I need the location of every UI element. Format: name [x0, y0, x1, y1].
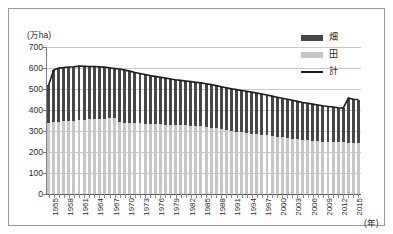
- x-axis-tick-label: 1967: [113, 198, 121, 216]
- x-axis-tick-label: 2009: [326, 198, 334, 216]
- x-axis-tick-label: 1964: [97, 198, 105, 216]
- chart-figure: (万ha) 7006005004003002001000 19551958196…: [0, 0, 393, 234]
- chart-legend: 畑田計: [301, 31, 371, 83]
- x-axis-tick-label: 1955: [52, 198, 60, 216]
- y-axis-tick-label: 400: [17, 106, 43, 115]
- y-axis-line: [46, 47, 47, 194]
- x-axis-tick-label: 1991: [234, 198, 242, 216]
- y-axis-tick-label: 0: [17, 190, 43, 199]
- x-axis-tick-label: 1979: [173, 198, 181, 216]
- x-axis-tick-label: 1973: [143, 198, 151, 216]
- x-axis-tick-label: 1961: [82, 198, 90, 216]
- legend-item[interactable]: 畑: [301, 31, 371, 44]
- legend-item-label: 畑: [329, 32, 338, 43]
- legend-item-label: 田: [329, 49, 338, 60]
- x-axis-tick-label: 1976: [158, 198, 166, 216]
- x-axis-tick-label: 1982: [189, 198, 197, 216]
- figure-frame: (万ha) 7006005004003002001000 19551958196…: [8, 8, 385, 226]
- legend-item[interactable]: 田: [301, 48, 371, 61]
- x-axis-tick-label: 2003: [295, 198, 303, 216]
- legend-line-swatch-icon: [301, 71, 323, 73]
- y-axis-tick-label: 500: [17, 85, 43, 94]
- x-axis-tick-label: 2000: [280, 198, 288, 216]
- y-axis-tick-label: 600: [17, 64, 43, 73]
- y-axis-tick-label: 700: [17, 43, 43, 52]
- legend-item-label: 計: [329, 66, 338, 77]
- x-axis-tick-label: 2012: [341, 198, 349, 216]
- x-axis-tick-label: 1997: [265, 198, 273, 216]
- x-axis-tick-label: 1994: [250, 198, 258, 216]
- y-axis-tick-label: 100: [17, 169, 43, 178]
- x-axis-tick-label: 1970: [128, 198, 136, 216]
- legend-bar-swatch-icon: [301, 35, 323, 41]
- y-axis-tick-label: 300: [17, 127, 43, 136]
- x-axis-tick-labels: 1955195819611964196719701973197619791982…: [46, 198, 376, 234]
- y-axis-tick-labels: 7006005004003002001000: [13, 47, 43, 194]
- legend-bar-swatch-icon: [301, 52, 323, 58]
- x-axis-tick-label: 1958: [67, 198, 75, 216]
- x-axis-tick-label: 1985: [204, 198, 212, 216]
- x-axis-tick-label: 1988: [219, 198, 227, 216]
- legend-item[interactable]: 計: [301, 65, 371, 78]
- x-axis-unit-label: (年): [364, 216, 379, 228]
- y-axis-unit-label: (万ha): [27, 28, 51, 40]
- y-axis-tick-label: 200: [17, 148, 43, 157]
- x-axis-tick-label: 2006: [311, 198, 319, 216]
- x-axis-tick-label: 2015: [356, 198, 364, 216]
